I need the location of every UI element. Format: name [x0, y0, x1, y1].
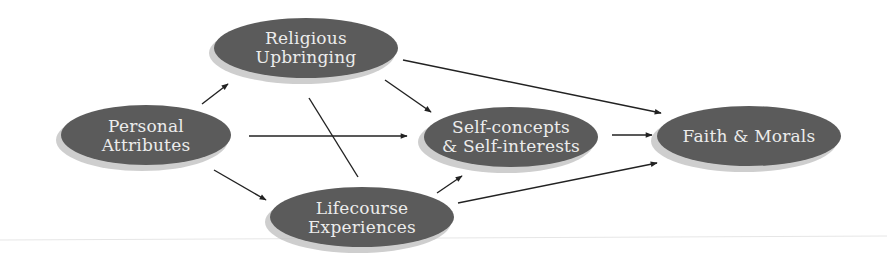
node-label: Faith & Morals [683, 126, 816, 146]
node-label: Upbringing [256, 47, 357, 67]
node-self-concepts: Self-concepts & Self-interests [418, 107, 598, 173]
node-faith-morals: Faith & Morals [651, 106, 841, 172]
edge-religious-lifecourse [309, 98, 358, 177]
node-label: Self-concepts [452, 117, 570, 137]
node-lifecourse-experiences: Lifecourse Experiences [265, 187, 454, 253]
edge-personal-to-religious [202, 84, 228, 104]
node-label: Experiences [308, 217, 416, 237]
node-label: Personal [108, 116, 184, 136]
node-label: & Self-interests [442, 136, 580, 156]
edge-lifecourse-to-self [437, 176, 462, 193]
path-diagram: Personal Attributes Religious Upbringing… [0, 0, 887, 260]
edge-personal-to-lifecourse [214, 170, 266, 200]
page-divider [0, 236, 887, 240]
node-label: Attributes [101, 135, 191, 155]
node-label: Lifecourse [316, 198, 409, 218]
node-personal-attributes: Personal Attributes [56, 105, 231, 171]
node-label: Religious [265, 28, 347, 48]
edge-religious-to-faith [403, 60, 661, 113]
node-religious-upbringing: Religious Upbringing [209, 18, 398, 84]
edge-religious-to-self [385, 80, 431, 112]
